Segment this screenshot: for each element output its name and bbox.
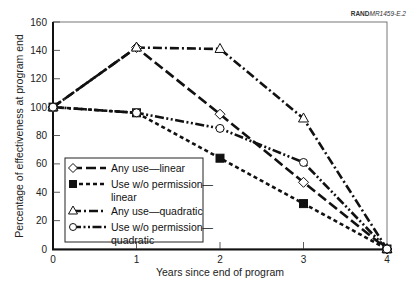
legend-label-cont: linear [111,191,137,203]
line-chart: RANDMR1459-E.2 020406080100120140160 012… [0,0,409,294]
x-tick-label: 4 [384,254,390,265]
x-tick-label: 2 [217,254,223,265]
source-tag-bold: RAND [351,10,370,17]
square-marker [216,154,224,162]
legend-label: Any use—quadratic [111,205,203,217]
x-tick-label: 0 [50,254,56,265]
circle-marker [383,245,391,253]
y-tick-label: 0 [41,244,47,255]
legend: Any use—linearUse w/o permission—linearA… [65,158,214,246]
circle-marker [49,103,57,111]
x-tick-label: 1 [134,254,140,265]
legend-label: Use w/o permission— [111,221,214,233]
y-tick-label: 80 [36,130,48,141]
x-tick-label: 3 [301,254,307,265]
y-tick-label: 140 [30,45,47,56]
circle-marker [133,109,141,117]
source-tag-code: MR1459-E.2 [370,10,407,17]
legend-label-cont: quadratic [111,234,154,246]
circle-marker [70,224,77,231]
y-tick-label: 160 [30,17,47,28]
square-marker [300,200,308,208]
y-tick-label: 100 [30,102,47,113]
y-tick-label: 60 [36,158,48,169]
legend-label: Any use—linear [111,162,186,174]
source-tag: RANDMR1459-E.2 [351,10,407,17]
y-tick-label: 120 [30,73,47,84]
y-axis-title: Percentage of effectiveness at program e… [13,34,25,238]
y-tick-label: 20 [36,215,48,226]
legend-label: Use w/o permission— [111,178,214,190]
x-axis-title: Years since end of program [156,266,284,278]
square-marker [70,181,77,188]
y-axis-ticks: 020406080100120140160 [30,17,60,255]
x-axis-ticks: 01234 [50,242,390,265]
circle-marker [300,158,308,166]
y-tick-label: 40 [36,187,48,198]
circle-marker [216,124,224,132]
